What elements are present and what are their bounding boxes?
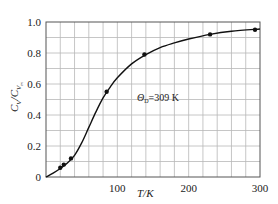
y-tick-label: 0.2: [27, 140, 41, 152]
x-tick-label: 300: [252, 182, 269, 194]
data-point: [69, 156, 73, 160]
y-axis-label: CV/CVm: [8, 82, 24, 112]
data-point: [142, 52, 146, 56]
y-axis-ticks: 00.20.40.60.81.0: [27, 16, 41, 183]
y-tick-label: 0.4: [27, 109, 41, 121]
debye-heat-capacity-chart: 00.20.40.60.81.0 100200300 T/K CV/CVm ΘD…: [0, 0, 278, 204]
y-tick-label: 0.6: [27, 78, 41, 90]
y-tick-label: 1.0: [27, 16, 41, 28]
data-point: [253, 28, 257, 32]
x-axis-label: T/K: [137, 187, 154, 199]
debye-temperature-annotation: ΘD=309 K: [137, 92, 180, 104]
x-tick-label: 100: [109, 182, 126, 194]
data-point: [208, 32, 212, 36]
data-point: [104, 90, 108, 94]
data-point: [62, 162, 66, 166]
y-tick-label: 0: [36, 171, 42, 183]
x-axis-ticks: 100200300: [109, 182, 269, 194]
data-point: [58, 166, 62, 170]
svg-text:CV/CVm: CV/CVm: [8, 82, 24, 112]
x-tick-label: 200: [180, 182, 197, 194]
y-tick-label: 0.8: [27, 47, 41, 59]
